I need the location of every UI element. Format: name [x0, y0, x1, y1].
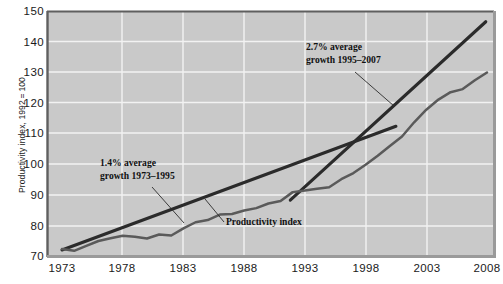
annotation-1point4: 1.4% average growth 1973–1995 [100, 157, 175, 183]
annotation-2point7: 2.7% average growth 1995–2007 [306, 41, 381, 67]
annotation-2point7-line2: growth 1995–2007 [306, 54, 381, 67]
annotation-2point7-line1: 2.7% average [306, 41, 381, 54]
annotation-series-label: Productivity index [226, 216, 302, 227]
annotation-1point4-line1: 1.4% average [100, 157, 175, 170]
productivity-chart: Productivity index, 1992 = 100 150 140 1… [0, 0, 503, 284]
plot-area [0, 0, 503, 284]
annotation-1point4-line2: growth 1973–1995 [100, 170, 175, 183]
